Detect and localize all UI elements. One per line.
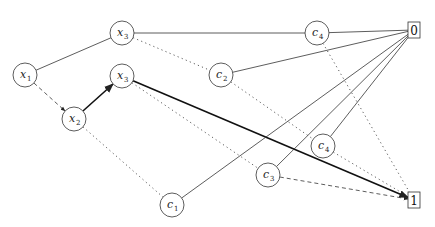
edge-c4a-to-t0 — [329, 30, 408, 32]
node-subscript: 1 — [27, 75, 31, 83]
decision-diagram: x1x3x3x2c4c2c4c3c1 01 — [0, 0, 435, 227]
node-x3b: x3 — [110, 64, 134, 88]
node-x2: x2 — [62, 107, 86, 131]
terminal-label: 1 — [410, 194, 418, 208]
edge-x2-to-c1 — [83, 127, 163, 197]
node-c4a: c4 — [305, 21, 329, 45]
node-label: c — [167, 198, 173, 211]
terminal-0: 0 — [408, 22, 420, 38]
node-subscript: 2 — [76, 119, 80, 127]
node-subscript: 2 — [223, 75, 227, 83]
terminal-1: 1 — [408, 192, 420, 208]
node-subscript: 4 — [319, 33, 324, 41]
edge-c4a-to-t1 — [323, 43, 409, 192]
node-label: c — [263, 168, 269, 181]
node-c4b: c4 — [311, 134, 335, 158]
edge-c4b-to-t1 — [333, 152, 408, 196]
node-label: c — [318, 139, 324, 152]
edge-c3-to-t1 — [280, 177, 408, 199]
nodes-layer: x1x3x3x2c4c2c4c3c1 — [13, 21, 335, 217]
node-x1: x1 — [13, 63, 37, 87]
node-x3a: x3 — [110, 21, 134, 45]
edges-layer — [34, 30, 409, 199]
edge-c4b-to-t0 — [330, 38, 408, 137]
node-subscript: 3 — [124, 33, 128, 41]
node-label: c — [312, 26, 318, 39]
node-label: x — [20, 68, 27, 81]
node-subscript: 1 — [174, 205, 178, 213]
node-c2: c2 — [209, 63, 233, 87]
edge-c3-to-t0 — [277, 36, 408, 167]
node-subscript: 3 — [124, 76, 128, 84]
edge-x1-to-x3a — [36, 38, 111, 70]
node-subscript: 3 — [270, 175, 274, 183]
edge-c2-to-c4b — [231, 82, 313, 139]
node-subscript: 4 — [325, 146, 330, 154]
node-label: c — [216, 68, 222, 81]
node-c1: c1 — [160, 193, 184, 217]
edge-x2-to-x3b — [83, 84, 113, 111]
node-label: x — [69, 112, 76, 125]
terminals-layer: 01 — [408, 22, 420, 208]
terminal-label: 0 — [410, 24, 418, 38]
node-label: x — [117, 26, 124, 39]
node-c3: c3 — [256, 163, 280, 187]
node-label: x — [117, 69, 124, 82]
edge-x3a-to-c2 — [133, 38, 210, 71]
edge-x1-to-x2 — [34, 83, 65, 111]
